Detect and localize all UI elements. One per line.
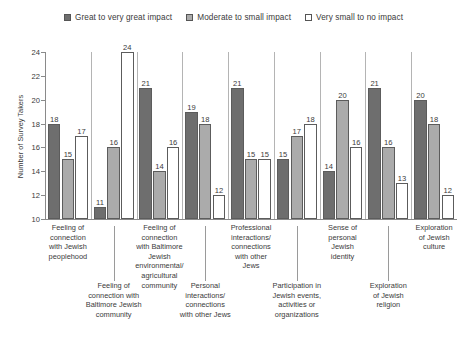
legend-swatch-icon bbox=[64, 14, 71, 21]
bar: 18 bbox=[48, 124, 61, 219]
x-axis-category-label: Sense ofpersonalJewishidentity bbox=[312, 223, 374, 261]
x-axis-category-label: Feeling ofconnectionwith Jewishpeoplehoo… bbox=[37, 223, 99, 261]
category-label-text: Feeling ofconnectionwith Jewishpeoplehoo… bbox=[37, 223, 99, 261]
bar: 17 bbox=[291, 136, 304, 220]
bar-value-label: 15 bbox=[64, 150, 72, 159]
category-label-text: Participation inJewish events,activities… bbox=[266, 281, 328, 319]
bar-value-label: 16 bbox=[169, 138, 177, 147]
bar-value-label: 21 bbox=[370, 79, 378, 88]
group-separator bbox=[91, 52, 92, 219]
bar: 16 bbox=[350, 147, 363, 219]
category-label-text: Explorationof Jewishculture bbox=[403, 223, 465, 252]
bar-value-label: 14 bbox=[155, 162, 163, 171]
group-separator bbox=[228, 52, 229, 219]
bar-group: 211613 bbox=[365, 52, 411, 219]
bar-value-label: 16 bbox=[352, 138, 360, 147]
bar-value-label: 18 bbox=[430, 115, 438, 124]
category-label-text: Sense ofpersonalJewishidentity bbox=[312, 223, 374, 261]
category-label-text: Personalinteractions/connectionswith oth… bbox=[174, 281, 236, 319]
y-axis-tick-label: 14 bbox=[32, 167, 40, 176]
y-axis-title: Number of Survey Takers bbox=[16, 77, 25, 197]
bar: 14 bbox=[323, 171, 336, 219]
bar: 11 bbox=[94, 207, 107, 219]
bar: 16 bbox=[107, 147, 120, 219]
bar-value-label: 19 bbox=[187, 103, 195, 112]
bar: 15 bbox=[245, 159, 258, 219]
bar: 18 bbox=[199, 124, 212, 219]
group-separator bbox=[411, 52, 412, 219]
group-separator bbox=[182, 52, 183, 219]
bar-groups: 1815171116242114161918122115151517181420… bbox=[45, 52, 457, 219]
bar-value-label: 20 bbox=[338, 91, 346, 100]
legend-item-very-small-to-no-impact: Very small to no impact bbox=[305, 13, 403, 22]
bar-value-label: 16 bbox=[384, 138, 392, 147]
bar-value-label: 12 bbox=[444, 186, 452, 195]
legend-swatch-icon bbox=[305, 14, 312, 21]
bar-group: 151718 bbox=[274, 52, 320, 219]
bar-value-label: 17 bbox=[77, 127, 85, 136]
group-separator bbox=[320, 52, 321, 219]
y-axis-tick-label: 22 bbox=[32, 71, 40, 80]
x-axis-category-label: Professionalinteractions/connectionswith… bbox=[220, 223, 282, 271]
bar: 14 bbox=[153, 171, 166, 219]
bar-value-label: 15 bbox=[260, 150, 268, 159]
bar-value-label: 18 bbox=[306, 115, 314, 124]
bar: 20 bbox=[336, 100, 349, 219]
group-separator bbox=[365, 52, 366, 219]
bar-group: 142016 bbox=[320, 52, 366, 219]
bar: 19 bbox=[185, 112, 198, 219]
bar-group: 201812 bbox=[411, 52, 457, 219]
bar: 18 bbox=[428, 124, 441, 219]
bar-chart: Great to very great impact Moderate to s… bbox=[0, 0, 467, 364]
plot-area: 1012141618202224 18151711162421141619181… bbox=[45, 52, 457, 219]
bar: 21 bbox=[139, 88, 152, 219]
bar: 21 bbox=[231, 88, 244, 219]
bar: 18 bbox=[304, 124, 317, 219]
bar: 20 bbox=[414, 100, 427, 219]
category-label-text: Professionalinteractions/connectionswith… bbox=[220, 223, 282, 271]
bar: 24 bbox=[121, 52, 134, 219]
bar: 17 bbox=[75, 136, 88, 220]
label-leader-line bbox=[388, 226, 389, 281]
bar: 16 bbox=[167, 147, 180, 219]
bar-value-label: 16 bbox=[109, 138, 117, 147]
bar: 15 bbox=[62, 159, 75, 219]
bar-value-label: 14 bbox=[325, 162, 333, 171]
bar-value-label: 17 bbox=[293, 127, 301, 136]
bar-group: 211416 bbox=[137, 52, 183, 219]
y-axis-tick-label: 24 bbox=[32, 48, 40, 57]
chart-legend: Great to very great impact Moderate to s… bbox=[0, 13, 467, 22]
x-axis-category-label: Explorationof Jewishreligion bbox=[357, 281, 419, 310]
bar: 21 bbox=[368, 88, 381, 219]
legend-item-moderate-to-small-impact: Moderate to small impact bbox=[186, 13, 291, 22]
bar-value-label: 15 bbox=[247, 150, 255, 159]
y-axis-tick-label: 18 bbox=[32, 119, 40, 128]
bar-value-label: 13 bbox=[398, 174, 406, 183]
x-axis-category-label: Explorationof Jewishculture bbox=[403, 223, 465, 252]
bar-value-label: 20 bbox=[416, 91, 424, 100]
y-axis-tick-label: 12 bbox=[32, 191, 40, 200]
bar: 15 bbox=[277, 159, 290, 219]
label-leader-line bbox=[114, 226, 115, 281]
legend-label: Moderate to small impact bbox=[197, 13, 291, 22]
legend-swatch-icon bbox=[186, 14, 193, 21]
bar-value-label: 11 bbox=[96, 198, 104, 207]
bar-group: 181517 bbox=[45, 52, 91, 219]
x-axis-category-label: Personalinteractions/connectionswith oth… bbox=[174, 281, 236, 319]
bar-value-label: 15 bbox=[279, 150, 287, 159]
bar: 15 bbox=[258, 159, 271, 219]
bar-value-label: 24 bbox=[123, 43, 131, 52]
y-axis-tick-label: 16 bbox=[32, 143, 40, 152]
group-separator bbox=[137, 52, 138, 219]
legend-label: Great to very great impact bbox=[75, 13, 172, 22]
category-label-text: Explorationof Jewishreligion bbox=[357, 281, 419, 310]
legend-item-great-to-very-great-impact: Great to very great impact bbox=[64, 13, 172, 22]
bar-group: 111624 bbox=[91, 52, 137, 219]
bar: 12 bbox=[213, 195, 226, 219]
bar: 16 bbox=[382, 147, 395, 219]
y-axis-tick-label: 20 bbox=[32, 95, 40, 104]
legend-label: Very small to no impact bbox=[316, 13, 403, 22]
bar: 12 bbox=[442, 195, 455, 219]
x-axis-category-label: Participation inJewish events,activities… bbox=[266, 281, 328, 319]
bar-value-label: 21 bbox=[142, 79, 150, 88]
